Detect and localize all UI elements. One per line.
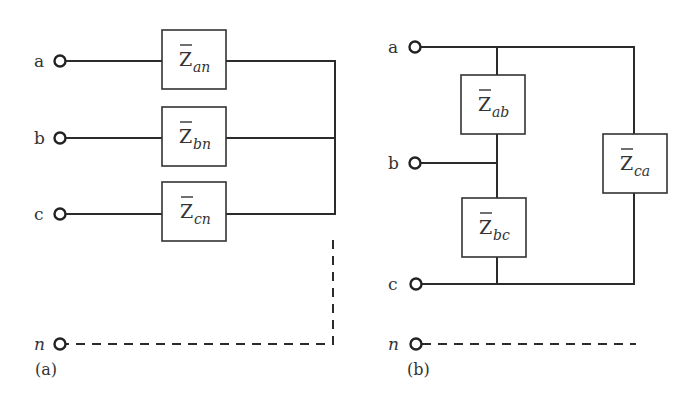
terminal-a-icon (55, 56, 66, 67)
impedance-zbc: Z bc (462, 198, 526, 257)
impedance-zbn: Z bn (162, 107, 226, 166)
impedance-subscript: an (193, 59, 210, 75)
terminal-label-n: n (34, 334, 45, 354)
terminal-b-icon (55, 133, 66, 144)
impedance-symbol: Z (620, 152, 633, 174)
impedance-symbol: Z (179, 48, 192, 70)
terminal-b-icon (410, 158, 421, 169)
circuit-diagram: Z an Z bn Z cn a b c n (a) (0, 0, 700, 400)
panel-caption-b: (b) (407, 360, 430, 379)
terminal-label-n: n (388, 334, 399, 354)
panel-b-delta-load: Z ab Z bc Z ca a b c n (b) (388, 37, 667, 379)
terminal-a-icon (410, 42, 421, 53)
terminal-n-icon (411, 339, 422, 350)
terminal-label-a: a (34, 51, 44, 71)
panel-a-wye-load: Z an Z bn Z cn a b c n (a) (34, 30, 335, 379)
impedance-subscript: cn (194, 211, 211, 227)
impedance-symbol: Z (180, 200, 193, 222)
terminal-label-a: a (388, 37, 398, 57)
impedance-subscript: ab (492, 104, 509, 120)
terminal-n-icon (55, 339, 66, 350)
impedance-zca: Z ca (603, 134, 667, 193)
impedance-symbol: Z (179, 125, 192, 147)
impedance-zan: Z an (162, 30, 226, 89)
panel-caption-a: (a) (35, 360, 57, 379)
impedance-symbol: Z (479, 216, 492, 238)
terminal-label-c: c (388, 274, 398, 294)
terminal-label-b: b (388, 153, 399, 173)
terminal-label-b: b (34, 128, 45, 148)
terminal-label-c: c (34, 204, 44, 224)
impedance-zcn: Z cn (162, 182, 226, 241)
impedance-subscript: bc (493, 227, 510, 243)
neutral-dashed-wire (66, 240, 333, 344)
impedance-zab: Z ab (461, 75, 525, 134)
terminal-c-icon (55, 209, 66, 220)
terminal-c-icon (411, 279, 422, 290)
impedance-symbol: Z (478, 93, 491, 115)
impedance-subscript: bn (193, 136, 211, 152)
impedance-subscript: ca (634, 163, 650, 179)
